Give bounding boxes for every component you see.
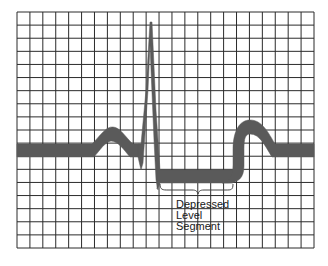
baseline-and-p-wave: [17, 127, 140, 157]
st-segment: [157, 170, 233, 189]
ecg-grid: [17, 12, 314, 248]
ecg-diagram: Depressed Level Segment: [0, 0, 328, 266]
qrs-complex: [138, 22, 160, 190]
annotation-line-3: Segment: [176, 220, 220, 232]
t-wave: [222, 120, 314, 183]
segment-brace: [160, 184, 233, 194]
ecg-waveform: [17, 22, 314, 190]
